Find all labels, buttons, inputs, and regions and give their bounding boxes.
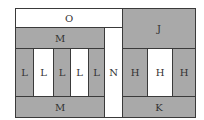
label-k: K — [155, 102, 162, 113]
label-l5: L — [93, 67, 100, 78]
region-o: O — [15, 8, 123, 28]
region-l1: L — [15, 48, 34, 97]
label-j: J — [157, 23, 161, 34]
label-o: O — [65, 13, 73, 24]
region-l4: L — [70, 48, 89, 97]
region-h1: H — [122, 48, 148, 97]
region-l5: L — [88, 48, 105, 97]
region-l3: L — [53, 48, 71, 97]
label-l4: L — [76, 67, 83, 78]
region-j: J — [122, 8, 196, 49]
label-h3: H — [180, 67, 189, 78]
label-h2: H — [156, 67, 165, 78]
label-l1: L — [21, 67, 28, 78]
region-m-bottom: M — [15, 96, 105, 118]
label-m-bottom: M — [55, 102, 65, 113]
region-h2: H — [147, 48, 173, 97]
label-m-top: M — [55, 33, 65, 44]
region-h3: H — [172, 48, 196, 97]
label-l3: L — [59, 67, 66, 78]
label-n: N — [109, 67, 118, 78]
region-l2: L — [33, 48, 54, 97]
label-h1: H — [131, 67, 140, 78]
region-k: K — [122, 96, 196, 118]
region-n: N — [104, 27, 123, 118]
region-m-top: M — [15, 27, 105, 49]
label-l2: L — [40, 67, 47, 78]
